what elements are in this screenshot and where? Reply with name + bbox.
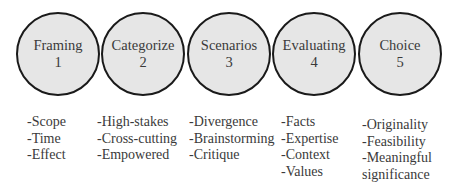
list-item: -Expertise xyxy=(281,131,339,148)
step-number: 4 xyxy=(310,54,317,71)
list-item: -Values xyxy=(281,164,339,181)
step-number: 5 xyxy=(396,54,403,71)
list-item: -Feasibility xyxy=(362,134,432,151)
list-item: -Empowered xyxy=(97,147,177,164)
step-title: Evaluating xyxy=(283,37,346,54)
step-title: Scenarios xyxy=(201,37,257,54)
step-number: 2 xyxy=(139,54,146,71)
scenarios-criteria-list: -Divergence -Brainstorming -Critique xyxy=(189,114,275,164)
step-number: 3 xyxy=(225,54,232,71)
list-item: -High-stakes xyxy=(97,114,177,131)
step-number: 1 xyxy=(54,54,61,71)
list-item: -Effect xyxy=(27,147,66,164)
step-circle-choice: Choice 5 xyxy=(358,12,442,96)
categorize-criteria-list: -High-stakes -Cross-cutting -Empowered xyxy=(97,114,177,164)
list-item: -Originality xyxy=(362,117,432,134)
step-circle-scenarios: Scenarios 3 xyxy=(187,12,271,96)
list-item: -Context xyxy=(281,147,339,164)
step-title: Categorize xyxy=(112,37,175,54)
step-title: Choice xyxy=(379,37,420,54)
list-item: -Time xyxy=(27,131,66,148)
step-circle-categorize: Categorize 2 xyxy=(101,12,185,96)
list-item: significance xyxy=(362,167,432,184)
step-circle-evaluating: Evaluating 4 xyxy=(272,12,356,96)
step-title: Framing xyxy=(33,37,82,54)
choice-criteria-list: -Originality -Feasibility -Meaningful si… xyxy=(362,117,432,183)
evaluating-criteria-list: -Facts -Expertise -Context -Values xyxy=(281,114,339,180)
framing-criteria-list: -Scope -Time -Effect xyxy=(27,114,66,164)
list-item: -Divergence xyxy=(189,114,275,131)
list-item: -Facts xyxy=(281,114,339,131)
list-item: -Critique xyxy=(189,147,275,164)
list-item: -Cross-cutting xyxy=(97,131,177,148)
list-item: -Brainstorming xyxy=(189,131,275,148)
list-item: -Scope xyxy=(27,114,66,131)
step-circle-framing: Framing 1 xyxy=(16,12,100,96)
list-item: -Meaningful xyxy=(362,150,432,167)
